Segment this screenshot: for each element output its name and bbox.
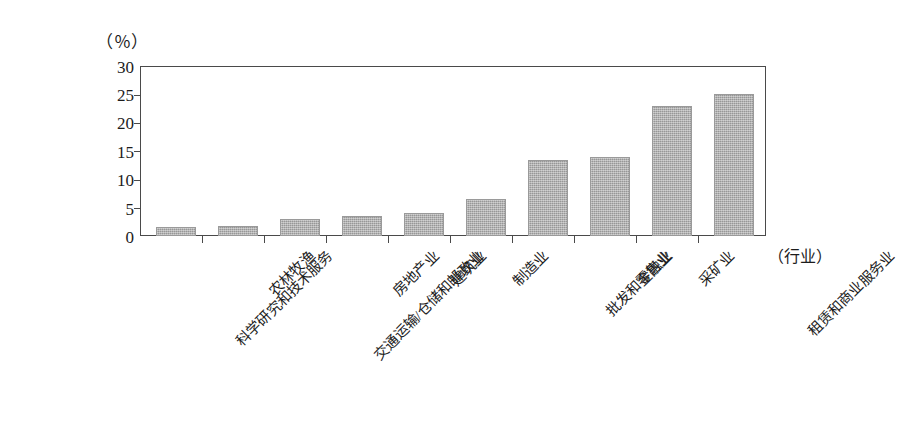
x-axis-title: （行业） xyxy=(768,243,832,267)
x-label-制造业: 制造业 xyxy=(511,248,552,289)
x-label-采矿业: 采矿业 xyxy=(697,248,738,289)
x-label-科学研究和技术服务: 科学研究和技术服务 xyxy=(234,248,336,350)
